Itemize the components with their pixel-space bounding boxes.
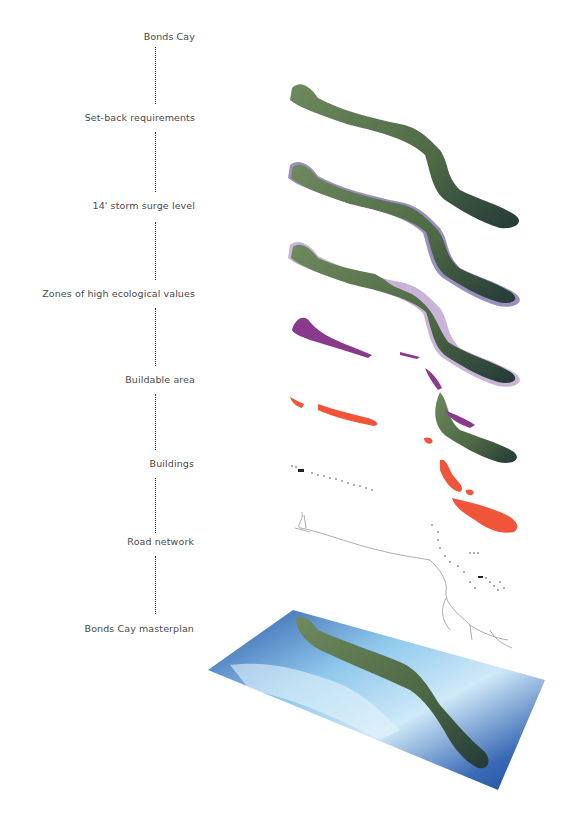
layer-graphics (0, 0, 566, 815)
layer-stack (0, 0, 566, 815)
layer-storm-surge (288, 242, 520, 387)
layer-ecological-zones (292, 318, 517, 463)
layer-buildings (291, 465, 504, 590)
layer-buildable-area (290, 397, 517, 533)
